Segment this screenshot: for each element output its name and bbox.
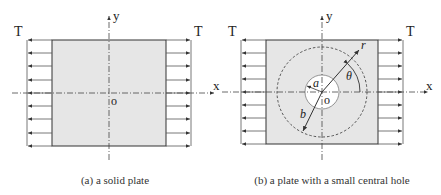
y-axis-label-a: y (113, 9, 120, 22)
figure-root: T T x y o T T x y o a b r θ (a) a solid … (0, 0, 441, 195)
solid-plate-figure (12, 16, 214, 160)
radial-coordinate-label: r (361, 39, 366, 51)
caption-b: (b) a plate with a small central hole (254, 174, 409, 186)
load-label-right-a: T (194, 25, 203, 39)
x-axis-label-a: x (213, 79, 220, 92)
load-label-right-b: T (406, 25, 415, 39)
origin-label-b: o (324, 94, 330, 106)
caption-a: (a) a solid plate (81, 174, 149, 186)
x-axis-label-b: x (426, 79, 433, 92)
angle-theta-label: θ (346, 70, 352, 82)
load-label-left-a: T (14, 25, 23, 39)
outer-radius-label: b (300, 108, 306, 120)
load-label-left-b: T (228, 25, 237, 39)
diagram-canvas (0, 0, 441, 195)
origin-label-a: o (111, 95, 117, 107)
hole-radius-label: a (313, 77, 319, 89)
y-axis-label-b: y (326, 9, 333, 22)
plate-with-hole-figure (222, 16, 428, 160)
